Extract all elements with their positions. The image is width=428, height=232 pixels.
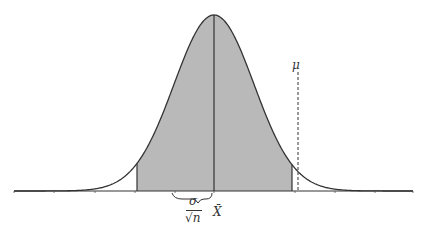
mu-label: μ [292, 58, 300, 72]
xbar-label: X̄ [213, 205, 222, 219]
sqrt-n-label: √n [185, 211, 200, 225]
normal-curve-diagram [0, 0, 428, 232]
sigma-label: σ [189, 194, 197, 208]
